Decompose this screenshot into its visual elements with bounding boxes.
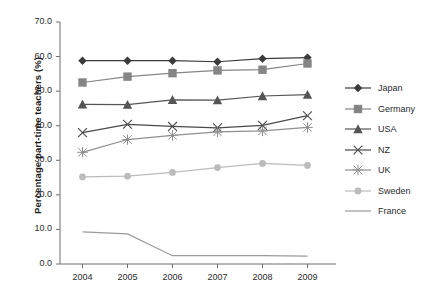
data-point-marker <box>213 58 221 66</box>
legend-marker-x-icon <box>344 142 372 158</box>
data-point-marker <box>124 173 131 180</box>
data-point-marker <box>354 105 362 113</box>
data-point-marker <box>79 173 86 180</box>
data-point-marker <box>78 57 86 65</box>
data-point-marker <box>258 54 266 62</box>
data-point-marker <box>302 122 313 133</box>
data-point-marker <box>304 162 311 169</box>
data-point-marker <box>123 57 131 65</box>
data-point-marker <box>303 59 311 67</box>
data-point-marker <box>168 69 176 77</box>
series-usa <box>78 90 312 109</box>
x-tick-label: 2005 <box>105 272 151 282</box>
legend-marker-diamond-icon <box>344 80 372 96</box>
legend-label: UK <box>378 165 391 175</box>
data-point-marker <box>214 164 221 171</box>
y-tick-label: 40.0 <box>18 120 52 130</box>
data-point-marker <box>354 84 362 92</box>
x-tick-label: 2008 <box>240 272 286 282</box>
data-point-marker <box>123 72 131 80</box>
y-tick-label: 60.0 <box>18 51 52 61</box>
series-france <box>83 232 308 256</box>
data-point-marker <box>355 187 362 194</box>
data-point-marker <box>122 134 133 145</box>
series-germany <box>78 59 311 86</box>
x-tick-label: 2007 <box>195 272 241 282</box>
legend-marker-asterisk-icon <box>344 162 372 178</box>
legend-item-uk[interactable]: UK <box>344 160 415 181</box>
y-tick-label: 30.0 <box>18 154 52 164</box>
legend-marker-square-icon <box>344 101 372 117</box>
legend-label: NZ <box>378 145 390 155</box>
x-tick-label: 2004 <box>60 272 106 282</box>
legend-label: Japan <box>378 83 403 93</box>
x-tick-label: 2006 <box>150 272 196 282</box>
legend-item-usa[interactable]: USA <box>344 119 415 140</box>
data-point-marker <box>258 66 266 74</box>
data-point-marker <box>353 165 364 176</box>
data-point-marker <box>213 66 221 74</box>
data-point-marker <box>169 169 176 176</box>
legend-item-japan[interactable]: Japan <box>344 78 415 99</box>
legend-label: France <box>378 206 406 216</box>
y-tick-label: 50.0 <box>18 85 52 95</box>
data-point-marker <box>78 78 86 86</box>
data-point-marker <box>168 57 176 65</box>
legend-label: Sweden <box>378 186 411 196</box>
legend-item-sweden[interactable]: Sweden <box>344 181 415 202</box>
chart-legend: JapanGermanyUSANZUKSwedenFrance <box>344 78 415 222</box>
legend-item-france[interactable]: France <box>344 201 415 222</box>
legend-label: USA <box>378 124 397 134</box>
series-japan <box>78 53 311 66</box>
data-point-marker <box>212 127 223 138</box>
data-point-marker <box>257 126 268 136</box>
chart-container: Percentage part-time teachers (%) 0.010.… <box>0 0 439 298</box>
legend-marker-none-icon <box>344 203 372 219</box>
y-tick-label: 70.0 <box>18 16 52 26</box>
data-point-marker <box>259 160 266 167</box>
legend-label: Germany <box>378 104 415 114</box>
data-point-marker <box>77 147 88 158</box>
legend-item-nz[interactable]: NZ <box>344 140 415 161</box>
data-series-layer <box>77 53 313 256</box>
series-sweden <box>79 160 311 180</box>
legend-marker-circle-icon <box>344 183 372 199</box>
data-point-marker <box>167 130 178 141</box>
x-tick-label: 2009 <box>285 272 331 282</box>
legend-item-germany[interactable]: Germany <box>344 99 415 120</box>
y-tick-label: 20.0 <box>18 189 52 199</box>
data-point-marker <box>303 111 312 120</box>
y-tick-label: 0.0 <box>18 258 52 268</box>
y-tick-label: 10.0 <box>18 223 52 233</box>
legend-marker-triangle-icon <box>344 121 372 137</box>
